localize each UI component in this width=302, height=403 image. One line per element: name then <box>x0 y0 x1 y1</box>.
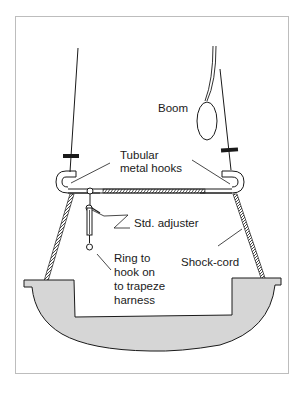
harness-ring <box>87 244 93 250</box>
label-ring-1: Ring to <box>114 252 150 264</box>
label-boom: Boom <box>158 102 188 114</box>
label-hooks-2: metal hooks <box>120 162 182 174</box>
label-hooks-1: Tubular <box>120 149 159 161</box>
trapeze-diagram: Boom Tubular metal hooks Std. adjuster R… <box>0 0 302 403</box>
label-ring-3: to trapeze <box>114 280 165 292</box>
label-adjuster: Std. adjuster <box>134 217 199 229</box>
label-ring-2: hook on <box>114 266 155 278</box>
boom-section <box>197 102 217 140</box>
bar-binding <box>103 189 205 193</box>
label-ring-4: harness <box>114 294 155 306</box>
label-shock-cord: Shock-cord <box>181 256 239 268</box>
left-wire-stopper <box>63 154 79 158</box>
